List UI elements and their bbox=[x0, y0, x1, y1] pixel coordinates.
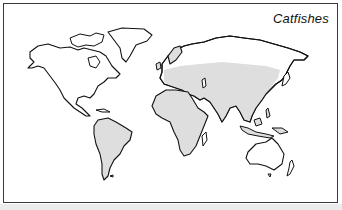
greenland bbox=[108, 28, 152, 62]
south-america bbox=[94, 118, 132, 180]
bottom-strip bbox=[0, 204, 342, 210]
philippines bbox=[266, 108, 270, 118]
indonesia bbox=[240, 126, 274, 138]
new-zealand bbox=[287, 160, 294, 176]
map-title: Catfishes bbox=[273, 11, 329, 26]
falkland-islands bbox=[110, 175, 113, 177]
new-guinea bbox=[272, 128, 288, 134]
british-isles bbox=[156, 62, 161, 70]
borneo bbox=[254, 118, 262, 126]
caspian-sea bbox=[202, 78, 206, 88]
caribbean-islands bbox=[96, 109, 110, 112]
tasmania bbox=[268, 174, 271, 177]
arctic-islands bbox=[70, 33, 104, 47]
north-america bbox=[28, 44, 120, 116]
world-map bbox=[4, 4, 337, 202]
map-frame: Catfishes bbox=[3, 3, 338, 203]
australia bbox=[246, 138, 284, 170]
madagascar bbox=[202, 132, 207, 146]
